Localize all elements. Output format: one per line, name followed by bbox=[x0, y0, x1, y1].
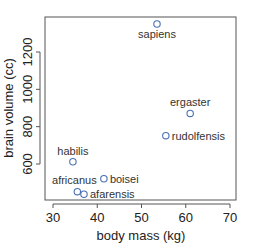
x-tick-label: 70 bbox=[223, 210, 237, 225]
point-marker bbox=[74, 188, 80, 194]
y-tick-label: 600 bbox=[20, 153, 35, 175]
data-point-boisei: boisei bbox=[101, 173, 139, 185]
plot-frame bbox=[45, 17, 236, 200]
point-label: africanus bbox=[52, 174, 97, 186]
point-marker bbox=[70, 159, 76, 165]
data-point-ergaster: ergaster bbox=[170, 96, 211, 116]
y-tick-label: 800 bbox=[20, 116, 35, 138]
data-point-rudolfensis: rudolfensis bbox=[163, 130, 226, 142]
point-label: rudolfensis bbox=[172, 130, 226, 142]
point-label: sapiens bbox=[138, 28, 176, 40]
plot-canvas: 3040506070 60080010001200 afarensisafric… bbox=[0, 0, 253, 251]
y-tick-label: 1000 bbox=[20, 75, 35, 104]
data-point-habilis: habilis bbox=[57, 145, 89, 165]
y-tick-label: 1200 bbox=[20, 38, 35, 67]
point-label: ergaster bbox=[170, 96, 211, 108]
point-marker bbox=[187, 110, 193, 116]
x-tick-label: 50 bbox=[134, 210, 148, 225]
point-label: habilis bbox=[57, 145, 89, 157]
y-axis: 60080010001200 bbox=[20, 38, 40, 175]
x-tick-label: 60 bbox=[179, 210, 193, 225]
point-label: boisei bbox=[110, 173, 139, 185]
point-marker bbox=[101, 176, 107, 182]
x-axis: 3040506070 bbox=[46, 204, 237, 225]
plot-border bbox=[45, 17, 236, 200]
x-tick-label: 40 bbox=[90, 210, 104, 225]
point-label: afarensis bbox=[90, 188, 135, 200]
data-point-afarensis: afarensis bbox=[81, 188, 135, 200]
data-point-sapiens: sapiens bbox=[138, 21, 176, 40]
point-marker bbox=[163, 132, 169, 138]
scatter-plot: 3040506070 60080010001200 afarensisafric… bbox=[0, 0, 253, 251]
data-points: afarensisafricanushabilisboiseirudolfens… bbox=[52, 21, 226, 200]
x-axis-label: body mass (kg) bbox=[97, 228, 186, 243]
point-marker bbox=[81, 191, 87, 197]
x-tick-label: 30 bbox=[46, 210, 60, 225]
y-axis-label: brain volume (cc) bbox=[1, 58, 16, 158]
point-marker bbox=[154, 21, 160, 27]
